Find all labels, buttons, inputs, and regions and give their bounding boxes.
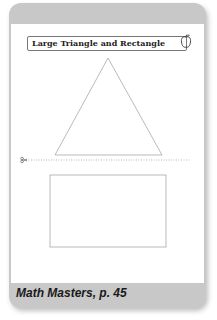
rectangle xyxy=(50,175,166,247)
worksheet-shapes xyxy=(0,0,217,320)
large-triangle xyxy=(55,58,162,155)
